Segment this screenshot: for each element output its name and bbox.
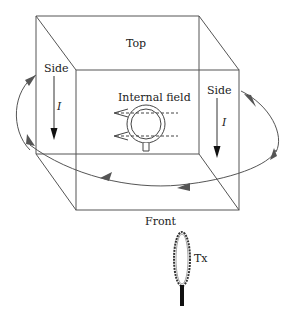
diagram-canvas: Top Front Side Side I I Internal field R… bbox=[0, 0, 289, 321]
current-right-label: I bbox=[221, 116, 227, 129]
side-right-label: Side bbox=[207, 84, 232, 97]
tx-label: Tx bbox=[194, 252, 208, 265]
internal-field-label: Internal field bbox=[118, 91, 191, 104]
current-left-label: I bbox=[56, 100, 62, 113]
current-arrow-right-icon bbox=[214, 98, 221, 158]
top-label: Top bbox=[126, 37, 146, 50]
front-label: Front bbox=[145, 215, 177, 228]
rx-coil-icon bbox=[127, 105, 165, 151]
side-left-label: Side bbox=[44, 62, 69, 75]
tx-coil-icon bbox=[174, 232, 190, 306]
